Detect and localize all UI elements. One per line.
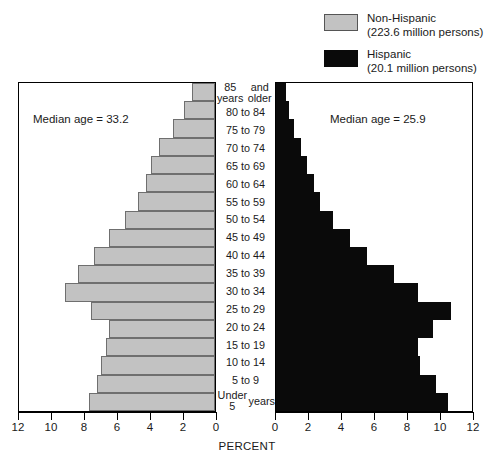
bar-row — [19, 302, 215, 320]
bar-row — [276, 156, 472, 174]
x-axis-tick — [440, 412, 441, 420]
bar-hispanic-45-to-49 — [276, 229, 350, 247]
bar-non-hispanic-60-to-64 — [146, 174, 215, 192]
bar-row — [276, 101, 472, 119]
bar-row — [19, 320, 215, 338]
age-group-label: 10 to 14 — [216, 354, 275, 372]
bar-row — [19, 101, 215, 119]
legend-label: Non-Hispanic — [367, 12, 436, 24]
bar-row — [276, 119, 472, 137]
bar-row — [19, 338, 215, 356]
bar-hispanic-35-to-39 — [276, 265, 394, 283]
age-group-label: 35 to 39 — [216, 265, 275, 283]
bar-hispanic-70-to-74 — [276, 138, 301, 156]
x-axis-tick — [374, 412, 375, 420]
bar-hispanic-40-to-44 — [276, 247, 367, 265]
bar-hispanic-60-to-64 — [276, 174, 314, 192]
age-group-label: 65 to 69 — [216, 158, 275, 176]
bar-row — [276, 302, 472, 320]
bar-hispanic-30-to-34 — [276, 283, 418, 301]
age-group-label: 60 to 64 — [216, 176, 275, 194]
x-axis-tick-label: 8 — [69, 421, 99, 433]
bar-non-hispanic-70-to-74 — [159, 138, 215, 156]
bar-row — [276, 247, 472, 265]
age-group-label: 55 to 59 — [216, 193, 275, 211]
bar-row — [19, 393, 215, 411]
age-group-label: 80 to 84 — [216, 104, 275, 122]
bar-row — [276, 138, 472, 156]
bar-row — [276, 83, 472, 101]
plot-area-non-hispanic — [18, 82, 216, 412]
x-axis-tick-label: 6 — [102, 421, 132, 433]
age-group-label: 20 to 24 — [216, 319, 275, 337]
bar-hispanic-75-to-79 — [276, 119, 294, 137]
plot-area-hispanic — [275, 82, 473, 412]
legend-label: Hispanic — [367, 48, 411, 60]
x-axis-tick-label: 0 — [201, 421, 231, 433]
age-group-label: Under 5years — [216, 390, 275, 412]
bar-row — [276, 229, 472, 247]
bar-non-hispanic-under-5-years — [89, 393, 215, 411]
bar-row — [276, 356, 472, 374]
bar-non-hispanic-25-to-29 — [91, 302, 215, 320]
x-axis-tick-label: 0 — [260, 421, 290, 433]
bar-non-hispanic-5-to-9 — [97, 375, 215, 393]
x-axis-tick — [84, 412, 85, 420]
bar-row — [19, 375, 215, 393]
age-group-label: 85 yearsand older — [216, 82, 275, 104]
x-axis-tick-label: 10 — [36, 421, 66, 433]
bar-non-hispanic-45-to-49 — [109, 229, 215, 247]
bar-non-hispanic-85-years-and-older — [192, 83, 215, 101]
age-group-label: 15 to 19 — [216, 336, 275, 354]
bar-row — [19, 265, 215, 283]
bar-row — [276, 283, 472, 301]
x-axis-tick — [150, 412, 151, 420]
x-axis-tick — [183, 412, 184, 420]
x-axis-tick — [117, 412, 118, 420]
bar-hispanic-15-to-19 — [276, 338, 418, 356]
legend-detail: (223.6 million persons) — [367, 26, 483, 38]
x-axis-tick-label: 12 — [3, 421, 33, 433]
age-group-label: 30 to 34 — [216, 283, 275, 301]
bar-row — [19, 156, 215, 174]
bar-non-hispanic-50-to-54 — [125, 211, 215, 229]
bar-hispanic-10-to-14 — [276, 356, 420, 374]
bar-row — [276, 320, 472, 338]
age-group-label: 50 to 54 — [216, 211, 275, 229]
bar-row — [19, 83, 215, 101]
age-group-label: 75 to 79 — [216, 122, 275, 140]
bar-row — [19, 119, 215, 137]
x-axis-tick-label: 6 — [359, 421, 389, 433]
bar-hispanic-50-to-54 — [276, 211, 333, 229]
bar-hispanic-5-to-9 — [276, 375, 436, 393]
age-group-label: 5 to 9 — [216, 372, 275, 390]
x-axis-tick — [216, 412, 217, 420]
bar-non-hispanic-80-to-84 — [184, 101, 215, 119]
gray-swatch-icon — [324, 14, 358, 31]
black-swatch-icon — [324, 50, 358, 67]
bar-hispanic-20-to-24 — [276, 320, 433, 338]
bar-row — [19, 229, 215, 247]
legend-item-non-hispanic: Non-Hispanic (223.6 million persons) — [324, 12, 483, 39]
bar-row — [276, 192, 472, 210]
x-axis-tick — [308, 412, 309, 420]
x-axis-tick — [341, 412, 342, 420]
bar-non-hispanic-15-to-19 — [106, 338, 215, 356]
bar-non-hispanic-40-to-44 — [94, 247, 215, 265]
age-group-label: 45 to 49 — [216, 229, 275, 247]
bar-hispanic-55-to-59 — [276, 192, 320, 210]
bar-row — [19, 356, 215, 374]
bar-row — [19, 174, 215, 192]
bar-row — [19, 283, 215, 301]
x-axis-tick — [51, 412, 52, 420]
x-axis-tick-label: 10 — [425, 421, 455, 433]
x-axis-tick-label: 12 — [458, 421, 488, 433]
age-group-label: 70 to 74 — [216, 140, 275, 158]
bar-row — [276, 393, 472, 411]
age-group-label: 25 to 29 — [216, 301, 275, 319]
x-axis-tick — [18, 412, 19, 420]
bar-non-hispanic-65-to-69 — [151, 156, 215, 174]
x-axis-tick — [407, 412, 408, 420]
bar-row — [19, 138, 215, 156]
x-axis-tick-label: 8 — [392, 421, 422, 433]
